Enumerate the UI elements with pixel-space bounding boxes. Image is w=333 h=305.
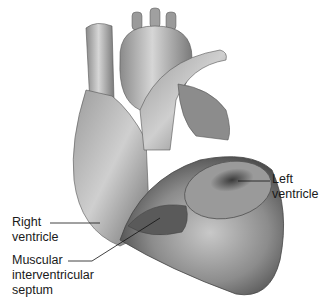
left-auricle	[178, 84, 230, 140]
label-line: interventricular	[12, 268, 94, 283]
label-line: Muscular	[12, 253, 94, 268]
label-septum: Muscular interventricular septum	[12, 253, 94, 298]
label-line: septum	[12, 283, 94, 298]
label-line: Left	[272, 172, 319, 187]
label-line: ventricle	[12, 230, 59, 245]
label-left-ventricle: Left ventricle	[272, 172, 319, 202]
label-right-ventricle: Right ventricle	[12, 215, 59, 245]
label-line: ventricle	[272, 187, 319, 202]
label-line: Right	[12, 215, 59, 230]
